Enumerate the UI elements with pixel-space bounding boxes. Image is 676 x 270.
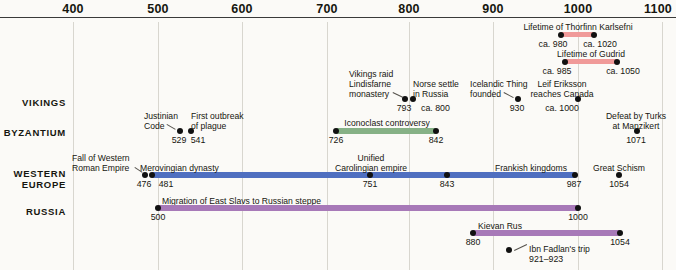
event-date-justinian-code: 529 — [172, 136, 187, 146]
event-dot-carolingian-start — [367, 172, 373, 178]
axis-tick-900: 900 — [482, 2, 503, 16]
event-date-icelandic-thing: 930 — [510, 104, 525, 114]
axis-tick-800: 800 — [398, 2, 419, 16]
event-dot-frankish-end — [572, 172, 578, 178]
event-date-carolingian-start: 751 — [363, 180, 378, 190]
event-date-iconoclast-end: 842 — [429, 136, 444, 146]
event-dot-manzikert — [634, 128, 640, 134]
gridline-400 — [73, 22, 74, 270]
axis-tick-700: 700 — [316, 2, 337, 16]
leader-line-justinian-code — [167, 124, 176, 130]
event-date-frankish-end: 987 — [567, 180, 582, 190]
event-dot-plague — [188, 128, 194, 134]
event-date-iconoclast-start: 726 — [329, 136, 344, 146]
event-label-leif-eriksson-line2: reaches Canada — [530, 90, 593, 100]
axis-tick-1000: 1000 — [564, 2, 593, 16]
event-label-norse-russia-line2: in Russia — [413, 90, 448, 100]
event-dot-leif-eriksson — [575, 96, 581, 102]
event-dot-migration-start — [155, 205, 161, 211]
gridline-600 — [242, 22, 243, 270]
row-title-western-europe-line1: WESTERN — [0, 168, 66, 179]
gridline-500 — [158, 22, 159, 270]
event-label-frankish-kingdoms: Frankish kingdoms — [495, 164, 567, 174]
gridline-800 — [409, 22, 410, 270]
leader-line-icelandic-thing — [504, 92, 514, 98]
row-title-western-europe-line2: EUROPE — [0, 179, 66, 190]
event-date-fall-rome: 476 — [137, 180, 152, 190]
event-date-great-schism: 1054 — [609, 180, 629, 190]
event-date-kievan-start: 880 — [466, 238, 481, 248]
event-dot-great-schism — [616, 172, 622, 178]
event-date-plague: 541 — [191, 136, 206, 146]
event-bar-kievan-rus — [473, 230, 620, 236]
axis-tick-400: 400 — [62, 2, 83, 16]
axis-rule — [0, 17, 676, 18]
event-date-gudrid-start: ca. 985 — [543, 67, 572, 77]
row-title-russia: RUSSIA — [0, 206, 66, 217]
gridline-700 — [327, 22, 328, 270]
event-dot-justinian-code — [177, 128, 183, 134]
event-date-leif-eriksson: ca. 1000 — [545, 104, 579, 114]
event-date-gudrid-end: ca. 1050 — [606, 67, 640, 77]
event-dot-norse-russia — [410, 96, 416, 102]
event-date-manzikert: 1071 — [626, 136, 646, 146]
axis-tick-500: 500 — [147, 2, 168, 16]
event-label-justinian-code-line2: Code — [144, 122, 165, 132]
event-dot-kievan-start — [470, 230, 476, 236]
event-date-migration-end: 1000 — [568, 213, 588, 223]
event-bar-iconoclast-controversy — [336, 128, 436, 134]
timeline-chart: 400 500 600 700 800 900 1000 1100 VIKING… — [0, 0, 676, 270]
event-dot-gudrid-end — [614, 59, 620, 65]
event-label-icelandic-thing-line2: founded — [470, 90, 501, 100]
gridline-1100 — [662, 22, 663, 270]
axis-tick-1100: 1100 — [644, 2, 672, 16]
leader-line-ibn-fadlan — [514, 244, 527, 251]
event-dot-thorfinn-end — [591, 32, 597, 38]
event-bar-east-slavs-migration — [158, 205, 578, 211]
event-dot-icelandic-thing — [515, 96, 521, 102]
row-title-byzantium: BYZANTIUM — [0, 127, 66, 138]
event-date-migration-start: 500 — [151, 213, 166, 223]
event-date-norse-russia: ca. 800 — [421, 104, 450, 114]
event-date-kievan-end: 1054 — [610, 238, 630, 248]
event-bar-gudrid — [565, 59, 617, 64]
event-date-merovingian-start: 481 — [159, 180, 174, 190]
event-dot-carolingian-end — [444, 172, 450, 178]
event-dot-ibn-fadlan — [506, 247, 512, 253]
event-dot-thorfinn-start — [558, 32, 564, 38]
axis-tick-600: 600 — [231, 2, 252, 16]
event-label-plague-line2: of plague — [191, 122, 226, 132]
event-label-lindisfarne-line3: monastery — [349, 90, 389, 100]
event-dot-merovingian-start — [149, 172, 155, 178]
event-bar-thorfinn-karlsefni — [561, 32, 594, 37]
event-date-lindisfarne: 793 — [397, 104, 412, 114]
event-dot-kievan-end — [617, 230, 623, 236]
event-date-carolingian-end: 843 — [440, 180, 455, 190]
event-date-ibn-fadlan: 921–923 — [529, 255, 563, 265]
row-title-vikings: VIKINGS — [0, 97, 66, 108]
event-dot-iconoclast-end — [433, 128, 439, 134]
event-dot-iconoclast-start — [333, 128, 339, 134]
event-dot-migration-end — [575, 205, 581, 211]
event-dot-lindisfarne — [402, 96, 408, 102]
event-dot-gudrid-start — [562, 59, 568, 65]
event-label-fall-rome-line2: Roman Empire — [72, 164, 129, 174]
